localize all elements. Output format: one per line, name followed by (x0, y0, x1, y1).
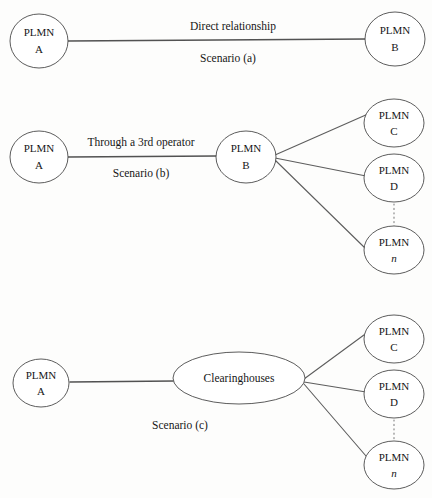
node-label-bottom: A (35, 43, 43, 55)
plmn-scenarios-diagram: PLMN A PLMN B Direct relationship Scenar… (0, 0, 432, 498)
node-label-bottom: D (390, 180, 398, 192)
edge-b-plmnb-plmnc (275, 114, 368, 155)
node-c-clearinghouses[interactable]: Clearinghouses (173, 352, 305, 404)
edge-caption-direct-relationship: Direct relationship (190, 20, 276, 33)
node-label-top: PLMN (380, 24, 411, 36)
hub-label: Clearinghouses (204, 372, 275, 385)
node-label-top: PLMN (24, 26, 55, 38)
node-label-top: PLMN (379, 109, 410, 121)
node-label-top: PLMN (24, 142, 55, 154)
node-label-bottom: A (35, 159, 43, 171)
scenario-caption-c: Scenario (c) (152, 419, 208, 432)
node-label-bottom: n (391, 467, 397, 479)
node-label-bottom: n (391, 252, 397, 264)
node-a-plmn-b[interactable]: PLMN B (365, 12, 425, 66)
node-label-top: PLMN (231, 142, 262, 154)
node-label-bottom: A (37, 385, 45, 397)
diagram-root: PLMN A PLMN B Direct relationship Scenar… (0, 0, 432, 498)
node-c-plmn-a[interactable]: PLMN A (13, 359, 69, 407)
node-a-plmn-a[interactable]: PLMN A (10, 14, 68, 68)
node-label-bottom: B (242, 159, 249, 171)
node-label-bottom: D (390, 396, 398, 408)
node-b-plmn-c[interactable]: PLMN C (364, 99, 424, 147)
node-circle (365, 12, 425, 66)
node-label-top: PLMN (379, 325, 410, 337)
node-c-plmn-n[interactable]: PLMN n (364, 441, 424, 489)
node-b-plmn-a[interactable]: PLMN A (10, 131, 68, 183)
scenario-a-group: PLMN A PLMN B Direct relationship Scenar… (10, 12, 425, 68)
edge-c-plmna-clearinghouses (70, 381, 174, 382)
node-b-plmn-b[interactable]: PLMN B (216, 131, 276, 183)
node-c-plmn-c[interactable]: PLMN C (364, 315, 424, 363)
edge-caption-through-3rd-operator: Through a 3rd operator (88, 136, 195, 149)
node-circle (10, 131, 68, 183)
node-circle (364, 99, 424, 147)
node-circle (13, 359, 69, 407)
scenario-c-group: PLMN A Clearinghouses PLMN C PLMN D (13, 315, 424, 489)
node-circle (364, 226, 424, 274)
node-label-top: PLMN (379, 380, 410, 392)
node-label-top: PLMN (379, 451, 410, 463)
node-circle (364, 154, 424, 202)
node-b-plmn-d[interactable]: PLMN D (364, 154, 424, 202)
node-label-top: PLMN (26, 369, 57, 381)
node-label-bottom: C (390, 341, 397, 353)
node-b-plmn-n[interactable]: PLMN n (364, 226, 424, 274)
node-label-bottom: B (391, 41, 398, 53)
node-label-top: PLMN (379, 236, 410, 248)
scenario-caption-a: Scenario (a) (200, 52, 256, 65)
node-circle (216, 131, 276, 183)
node-label-top: PLMN (379, 164, 410, 176)
node-circle (10, 14, 68, 68)
edge-c-clearinghouses-plmnd (304, 382, 366, 392)
edge-b-plmna-plmnb (68, 156, 217, 157)
edge-c-clearinghouses-plmnn (304, 384, 366, 456)
node-c-plmn-d[interactable]: PLMN D (364, 370, 424, 418)
scenario-b-group: PLMN A PLMN B PLMN C PLMN D (10, 99, 424, 274)
edge-c-clearinghouses-plmnc (304, 332, 368, 379)
node-label-bottom: C (390, 125, 397, 137)
node-circle (364, 315, 424, 363)
scenario-caption-b: Scenario (b) (113, 167, 170, 180)
node-circle (364, 370, 424, 418)
node-circle (364, 441, 424, 489)
edge-a-plmna-plmnb (68, 39, 366, 41)
